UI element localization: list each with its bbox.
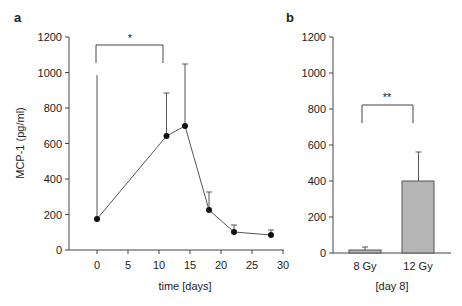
panel-a-y-ticks: 0 200 400 600 800 1000 1200: [38, 31, 62, 256]
panel-b-significance-label: **: [383, 91, 392, 103]
panel-a-x-axis: [69, 250, 284, 254]
panel-a-data-line: [97, 126, 271, 235]
svg-text:400: 400: [44, 173, 62, 185]
svg-text:200: 200: [44, 209, 62, 221]
svg-text:1200: 1200: [38, 31, 62, 43]
panel-b-x-label: [day 8]: [375, 280, 408, 292]
svg-text:600: 600: [308, 139, 326, 151]
panel-a-label: a: [14, 10, 22, 25]
bar-8gy: [349, 250, 381, 253]
svg-text:0: 0: [56, 244, 62, 256]
svg-text:600: 600: [44, 138, 62, 150]
panel-b-significance-bracket: [362, 105, 413, 123]
panel-b-y-axis: [329, 37, 333, 253]
panel-a-y-axis: [65, 37, 69, 250]
svg-text:0: 0: [94, 259, 100, 271]
svg-text:25: 25: [246, 259, 258, 271]
svg-text:800: 800: [44, 102, 62, 114]
panel-b-label: b: [286, 10, 294, 25]
panel-a-significance-label: *: [128, 32, 133, 44]
panel-a-y-label: MCP-1 (pg/ml): [14, 107, 26, 179]
svg-text:20: 20: [215, 259, 227, 271]
panel-b-x-ticks: 8 Gy 12 Gy: [353, 260, 433, 272]
svg-text:15: 15: [184, 259, 196, 271]
panel-a-x-label: time [days]: [158, 280, 211, 292]
panel-b-y-ticks: 0 200 400 600 800 1000 1200: [302, 31, 326, 259]
svg-text:800: 800: [308, 103, 326, 115]
svg-text:400: 400: [308, 175, 326, 187]
svg-text:1000: 1000: [302, 67, 326, 79]
figure: a 0 200 400 600 800 1000 1200 MCP-1 (pg/…: [0, 0, 462, 306]
svg-text:30: 30: [277, 259, 289, 271]
svg-text:1200: 1200: [302, 31, 326, 43]
panel-a-error-bars: [94, 64, 274, 235]
svg-text:200: 200: [308, 211, 326, 223]
bar-12gy: [402, 181, 434, 253]
svg-text:8 Gy: 8 Gy: [353, 260, 377, 272]
panel-a-significance-bracket: [96, 45, 163, 63]
svg-text:10: 10: [153, 259, 165, 271]
svg-text:0: 0: [320, 247, 326, 259]
svg-text:5: 5: [125, 259, 131, 271]
panel-a-x-ticks: 0 5 10 15 20 25 30: [94, 259, 289, 271]
panel-a-data-points: [94, 123, 274, 238]
svg-text:12 Gy: 12 Gy: [403, 260, 433, 272]
svg-text:1000: 1000: [38, 67, 62, 79]
